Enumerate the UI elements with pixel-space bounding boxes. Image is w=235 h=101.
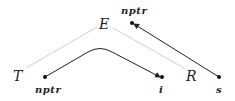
dot-i	[160, 75, 164, 79]
label-t: T	[13, 68, 24, 84]
label-s: s	[216, 84, 222, 95]
arrow-nptr-to-i	[45, 49, 160, 78]
arrow-s-to-nptr	[134, 24, 219, 77]
label-nptr-top: nptr	[121, 5, 147, 16]
label-nptr-bottom: nptr	[35, 84, 61, 95]
label-e: E	[98, 16, 109, 32]
label-i: i	[159, 84, 163, 95]
edge-e-t	[26, 27, 97, 68]
dot-s	[217, 75, 221, 79]
dot-nptr-top	[130, 21, 134, 25]
diagram-canvas: E T R nptr nptr i s	[0, 0, 235, 101]
dot-nptr-bottom	[43, 75, 47, 79]
label-r: R	[185, 68, 197, 84]
